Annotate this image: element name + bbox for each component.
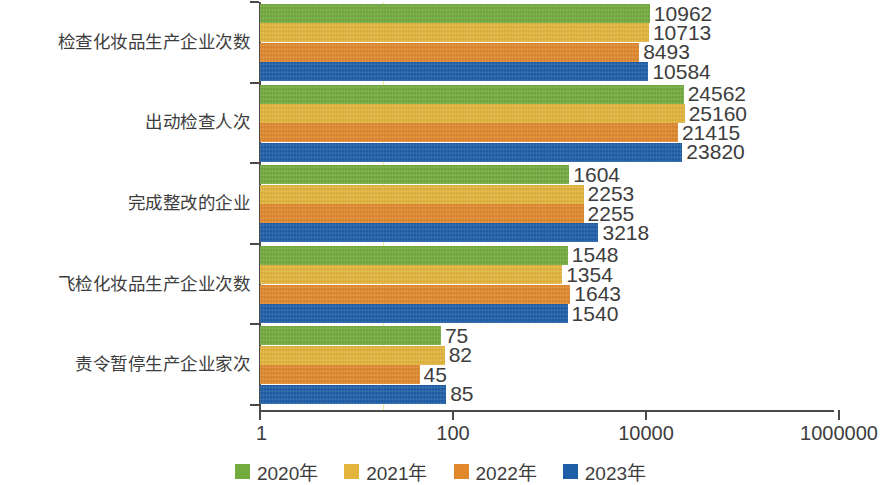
bar-value-label: 24562 (688, 83, 746, 104)
bar-fill (260, 43, 639, 62)
bar-fill (260, 4, 650, 23)
plot-area: 1100100001000000 10962107138493105842456… (259, 0, 833, 410)
category-label: 出动检查人次 (145, 114, 250, 132)
legend-label: 2020年 (257, 458, 318, 485)
y-axis-tick (250, 323, 259, 325)
bar (260, 185, 584, 204)
bar-value-label: 3218 (602, 222, 649, 243)
bar-value-label: 1643 (574, 283, 621, 304)
bar (260, 23, 649, 42)
bar (260, 326, 441, 345)
x-axis-line (259, 410, 834, 412)
x-axis-tick (452, 410, 454, 420)
bar (260, 43, 639, 62)
bar-fill (260, 223, 598, 242)
bar-value-label: 10584 (652, 61, 710, 82)
bar-fill (260, 185, 584, 204)
bar (260, 4, 650, 23)
y-axis-tick (250, 1, 259, 3)
bar-value-label: 23820 (686, 141, 744, 162)
bar-value-label: 85 (450, 383, 473, 404)
bar (260, 385, 446, 404)
bar-fill (260, 265, 562, 284)
bar-fill (260, 85, 684, 104)
y-axis-tick (250, 243, 259, 245)
bar-fill (260, 365, 420, 384)
y-axis-tick (250, 404, 259, 406)
bar (260, 85, 684, 104)
legend-label: 2022年 (476, 458, 537, 485)
x-axis-tick (259, 410, 261, 420)
bar-fill (260, 346, 445, 365)
legend-item[interactable]: 2022年 (454, 458, 537, 485)
legend-item[interactable]: 2023年 (563, 458, 646, 485)
bar-fill (260, 304, 568, 323)
bar-fill (260, 143, 682, 162)
bar-fill (260, 285, 570, 304)
bar-fill (260, 246, 568, 265)
bar (260, 143, 682, 162)
bar (260, 204, 584, 223)
bar (260, 165, 569, 184)
bar-fill (260, 204, 584, 223)
x-axis-tick-label: 1000000 (800, 422, 878, 445)
bar-fill (260, 104, 685, 123)
bar-fill (260, 165, 569, 184)
bar (260, 285, 570, 304)
bar-fill (260, 62, 648, 81)
bar-value-label: 2253 (588, 183, 635, 204)
bar-fill (260, 23, 649, 42)
bar-value-label: 45 (424, 364, 447, 385)
bar-chart: 检查化妆品生产企业次数出动检查人次完成整改的企业飞检化妆品生产企业次数责令暂停生… (0, 0, 881, 485)
bar (260, 62, 648, 81)
bar (260, 304, 568, 323)
bar (260, 265, 562, 284)
bar (260, 123, 678, 142)
category-label: 责令暂停生产企业家次 (75, 356, 250, 374)
legend-label: 2023年 (585, 458, 646, 485)
category-label: 飞检化妆品生产企业次数 (58, 276, 251, 294)
legend-item[interactable]: 2020年 (235, 458, 318, 485)
x-axis-tick-label: 1 (256, 422, 267, 445)
category-label: 完成整改的企业 (128, 195, 251, 213)
x-axis-tick (838, 410, 840, 420)
bar-value-label: 82 (449, 344, 472, 365)
bar (260, 223, 598, 242)
x-axis-tick (645, 410, 647, 420)
bar-fill (260, 385, 446, 404)
y-axis-tick (250, 162, 259, 164)
y-axis-tick (250, 82, 259, 84)
category-label: 检查化妆品生产企业次数 (58, 34, 251, 52)
x-axis-tick-label: 10000 (618, 422, 674, 445)
legend-swatch-icon (454, 464, 469, 479)
x-axis-tick-label: 100 (436, 422, 469, 445)
legend-label: 2021年 (366, 458, 427, 485)
bar (260, 346, 445, 365)
legend-item[interactable]: 2021年 (344, 458, 427, 485)
bar-fill (260, 326, 441, 345)
bar (260, 365, 420, 384)
bar-value-label: 1540 (572, 303, 619, 324)
category-axis-labels: 检查化妆品生产企业次数出动检查人次完成整改的企业飞检化妆品生产企业次数责令暂停生… (0, 0, 256, 410)
legend-swatch-icon (235, 464, 250, 479)
legend: 2020年2021年2022年2023年 (0, 458, 881, 484)
legend-swatch-icon (563, 464, 578, 479)
bar (260, 246, 568, 265)
bar (260, 104, 685, 123)
bar-fill (260, 123, 678, 142)
legend-swatch-icon (344, 464, 359, 479)
